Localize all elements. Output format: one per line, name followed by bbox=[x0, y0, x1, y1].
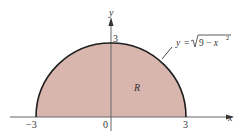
x-tick-0: 0 bbox=[103, 119, 108, 130]
x-tick-neg3: −3 bbox=[26, 119, 37, 130]
equation-leader-line bbox=[162, 47, 172, 59]
y-tick-3: 3 bbox=[113, 33, 118, 44]
region-label: R bbox=[133, 82, 140, 93]
y-axis-label: y bbox=[108, 7, 114, 18]
equation-lhs: y bbox=[175, 38, 181, 48]
semicircle-region-diagram: y x 3 −3 0 3 R y = 9 − x 2 bbox=[0, 0, 246, 134]
y-axis-arrow-icon bbox=[109, 17, 114, 26]
curve-equation: y = 9 − x 2 bbox=[175, 34, 231, 48]
equation-radicand: 9 − x bbox=[199, 38, 219, 48]
equation-equals: = bbox=[184, 38, 189, 48]
x-tick-3: 3 bbox=[183, 119, 188, 130]
x-axis-label: x bbox=[227, 112, 233, 123]
equation-exponent: 2 bbox=[226, 34, 229, 41]
